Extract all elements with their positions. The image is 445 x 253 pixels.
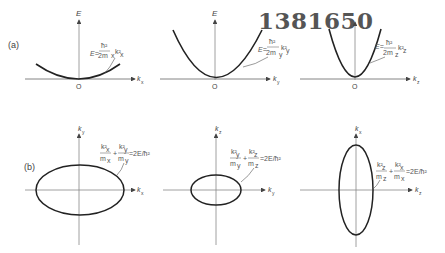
row-b-label: (b) [24, 162, 35, 172]
svg-text:x: x [106, 146, 110, 153]
svg-text:m: m [248, 160, 254, 167]
svg-text:z: z [383, 175, 387, 182]
svg-text:x: x [107, 157, 111, 164]
svg-text:y: y [237, 162, 241, 170]
svg-text:x: x [401, 175, 405, 182]
svg-text:E: E [212, 9, 218, 18]
panel-b1: k y k x k²x mx + k²y my =2E/ħ² [25, 125, 150, 245]
svg-text:z: z [419, 190, 422, 196]
row-a-label: (a) [8, 40, 19, 50]
svg-text:z: z [254, 151, 258, 158]
svg-text:y: y [82, 129, 85, 135]
dispersion-diagram: (a) E k x O E= ħ² 2m x k² x E k y O E= ħ… [0, 0, 445, 253]
svg-text:+: + [243, 155, 247, 162]
svg-text:O: O [352, 83, 358, 90]
svg-text:+: + [113, 150, 117, 157]
svg-text:=2E/ħ²: =2E/ħ² [129, 150, 150, 157]
panel-b2: k z k y k²y my + k²z mz =2E/ħ² [163, 125, 281, 245]
svg-text:x: x [400, 164, 404, 171]
svg-text:z: z [219, 129, 222, 135]
svg-text:O: O [212, 83, 218, 90]
svg-text:x: x [141, 190, 144, 196]
svg-text:z: z [395, 51, 399, 58]
svg-text:m: m [100, 155, 106, 162]
svg-text:y: y [277, 79, 280, 85]
svg-text:+: + [389, 168, 393, 175]
svg-text:=2E/ħ²: =2E/ħ² [406, 168, 427, 175]
svg-text:z: z [382, 164, 386, 171]
svg-text:m: m [394, 173, 400, 180]
svg-text:O: O [76, 83, 82, 90]
panel-b3: k x k z k²z mz + k²x mx =2E/ħ² [300, 125, 427, 247]
panel-a1: E k x O E= ħ² 2m x k² x [25, 9, 144, 90]
svg-text:z: z [255, 162, 259, 169]
svg-text:2m: 2m [98, 52, 108, 59]
svg-text:ħ²: ħ² [269, 38, 276, 45]
svg-text:x: x [120, 51, 124, 58]
svg-text:2m: 2m [266, 49, 276, 56]
svg-text:y: y [272, 190, 275, 196]
svg-text:x: x [359, 129, 362, 135]
svg-text:z: z [403, 47, 407, 54]
svg-text:ħ²: ħ² [386, 39, 393, 46]
panel-a2: E k y O E= ħ² 2m y k² y [160, 9, 290, 90]
panel-a3: k z O E= ħ² 2m z k² z [300, 22, 420, 90]
svg-text:y: y [286, 47, 290, 55]
svg-text:2m: 2m [383, 49, 393, 56]
svg-text:z: z [417, 79, 420, 85]
svg-text:x: x [141, 79, 144, 85]
svg-text:y: y [125, 157, 129, 165]
svg-text:ħ²: ħ² [101, 42, 108, 49]
svg-text:E: E [76, 9, 82, 18]
svg-text:m: m [118, 155, 124, 162]
svg-text:m: m [376, 173, 382, 180]
svg-text:m: m [230, 160, 236, 167]
svg-text:=2E/ħ²: =2E/ħ² [260, 155, 281, 162]
svg-text:y: y [279, 51, 283, 59]
